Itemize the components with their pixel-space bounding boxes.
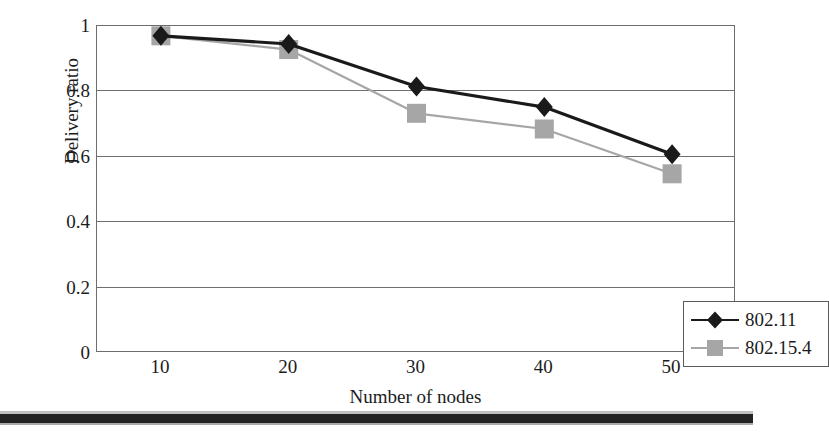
plot-area: 802.11 802.15.4: [96, 25, 735, 352]
x-tick-label-40: 40: [508, 357, 578, 378]
y-tick-label-0.4: 0.4: [30, 212, 90, 231]
scan-artifact-lower: [0, 423, 753, 425]
data-point-marker: [407, 104, 426, 123]
x-tick-label-10: 10: [125, 357, 195, 378]
x-axis-tick-labels: 10 20 30 40 50: [96, 357, 735, 383]
data-point-marker: [664, 144, 681, 164]
data-point-marker: [535, 120, 554, 139]
legend-item-802-11: 802.11: [689, 306, 823, 334]
y-axis-title: Delivery ratio: [61, 31, 83, 191]
x-tick-label-50: 50: [636, 357, 706, 378]
legend-marker-diamond-icon: [689, 308, 741, 332]
series-line-802-11: [152, 26, 680, 164]
data-point-marker: [663, 164, 682, 183]
x-tick-label-30: 30: [381, 357, 451, 378]
legend-label-802-15-4: 802.15.4: [741, 337, 812, 359]
y-tick-label-0: 0: [30, 343, 90, 362]
series-plot: [97, 26, 736, 353]
x-tick-label-20: 20: [253, 357, 323, 378]
series-line-802-15-4: [151, 26, 681, 183]
x-axis-title: Number of nodes: [96, 386, 735, 408]
y-tick-label-0.2: 0.2: [30, 277, 90, 296]
data-point-marker: [536, 97, 553, 117]
data-point-marker: [408, 76, 425, 96]
scan-artifact-bar: [0, 414, 753, 423]
legend-label-802-11: 802.11: [741, 309, 797, 331]
